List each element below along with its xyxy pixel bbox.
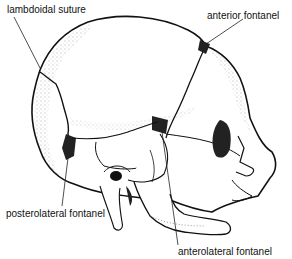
- leader-lambdoidal: [14, 17, 40, 68]
- label-lambdoidal-suture: lambdoidal suture: [7, 5, 86, 15]
- label-anterior-fontanel: anterior fontanel: [207, 11, 279, 21]
- leader-anterior: [206, 19, 243, 44]
- skull-drawing: [0, 0, 292, 259]
- label-posterolateral-fontanel: posterolateral fontanel: [6, 209, 105, 219]
- ear-opening: [110, 171, 122, 181]
- label-anterolateral-fontanel: anterolateral fontanel: [178, 247, 272, 257]
